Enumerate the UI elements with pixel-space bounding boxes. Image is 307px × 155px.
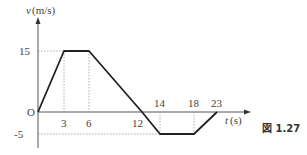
y-axis-arrow-icon — [36, 17, 41, 24]
x-axis-label-var: t — [225, 114, 229, 126]
x-tick-23: 23 — [211, 97, 223, 109]
y-axis-label-unit: (m/s) — [32, 4, 56, 17]
y-tick-15: 15 — [19, 45, 31, 57]
y-axis-label-var: v — [26, 4, 31, 16]
x-axis-label-unit: (s) — [230, 114, 242, 127]
origin-label: O — [27, 106, 35, 118]
x-tick-6: 6 — [86, 117, 92, 129]
x-tick-12: 12 — [132, 117, 143, 129]
x-tick-18: 18 — [188, 97, 200, 109]
y-tick-minus5: -5 — [14, 128, 24, 140]
velocity-time-chart: v (m/s) 15 -5 O 3 6 12 14 18 23 t (s) 図 … — [0, 0, 307, 155]
x-axis-arrow-icon — [244, 110, 251, 115]
figure-caption: 図 1.27 — [262, 123, 300, 134]
x-tick-3: 3 — [61, 117, 67, 129]
x-tick-14: 14 — [154, 97, 166, 109]
